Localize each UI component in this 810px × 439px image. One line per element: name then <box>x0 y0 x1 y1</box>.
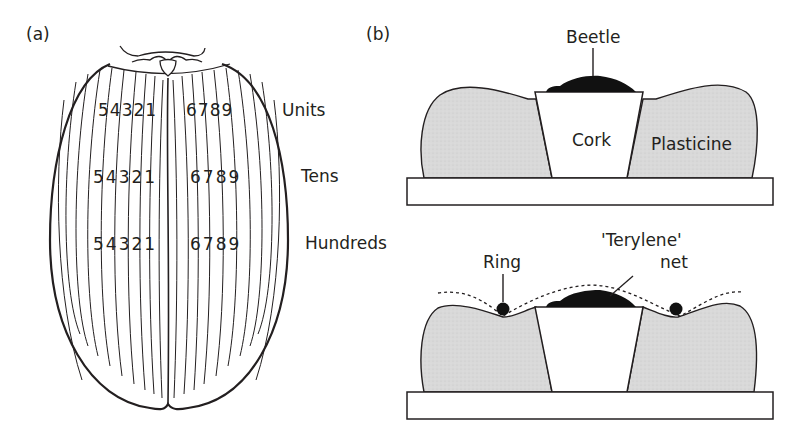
plasticine-left-bottom <box>421 305 552 392</box>
tens-right-digits: 6789 <box>190 167 241 187</box>
plasticine-left <box>421 87 552 178</box>
beetle-label: Beetle <box>566 27 620 47</box>
plasticine-right-bottom <box>627 303 757 392</box>
beetle-head <box>108 46 230 76</box>
ring-left <box>497 303 510 316</box>
hundreds-right-digits: 6789 <box>190 234 241 254</box>
base-board-bottom <box>407 392 773 419</box>
hundreds-label: Hundreds <box>305 233 387 253</box>
units-left-digits: 54321 <box>98 100 157 120</box>
setup-bottom: Ring 'Terylene' net <box>407 230 773 419</box>
cork-label: Cork <box>572 130 611 150</box>
panel-a-label: (a) <box>26 24 50 44</box>
net-label-line2: net <box>660 252 688 272</box>
plasticine-right <box>627 85 757 178</box>
panel-b-label: (b) <box>366 24 390 44</box>
hundreds-left-digits: 54321 <box>93 234 157 254</box>
beetle-specimen <box>546 76 636 92</box>
ring-right <box>670 303 683 316</box>
cork-bottom <box>535 307 643 392</box>
units-label: Units <box>282 100 326 120</box>
panel-b: (b) Beetle Cork Plasticine <box>366 24 773 419</box>
setup-top: Beetle Cork Plasticine <box>407 27 773 205</box>
net-label-line1: 'Terylene' <box>601 230 682 250</box>
plasticine-label: Plasticine <box>651 134 732 154</box>
ring-label: Ring <box>483 252 521 272</box>
units-right-digits: 6789 <box>186 100 233 120</box>
beetle-specimen-bottom <box>546 290 636 307</box>
beetle-elytra <box>50 64 288 409</box>
tens-label: Tens <box>300 166 339 186</box>
base-board-top <box>407 178 773 205</box>
figure-canvas: (a) <box>0 0 810 439</box>
panel-a: (a) <box>26 24 387 409</box>
tens-left-digits: 54321 <box>93 167 157 187</box>
